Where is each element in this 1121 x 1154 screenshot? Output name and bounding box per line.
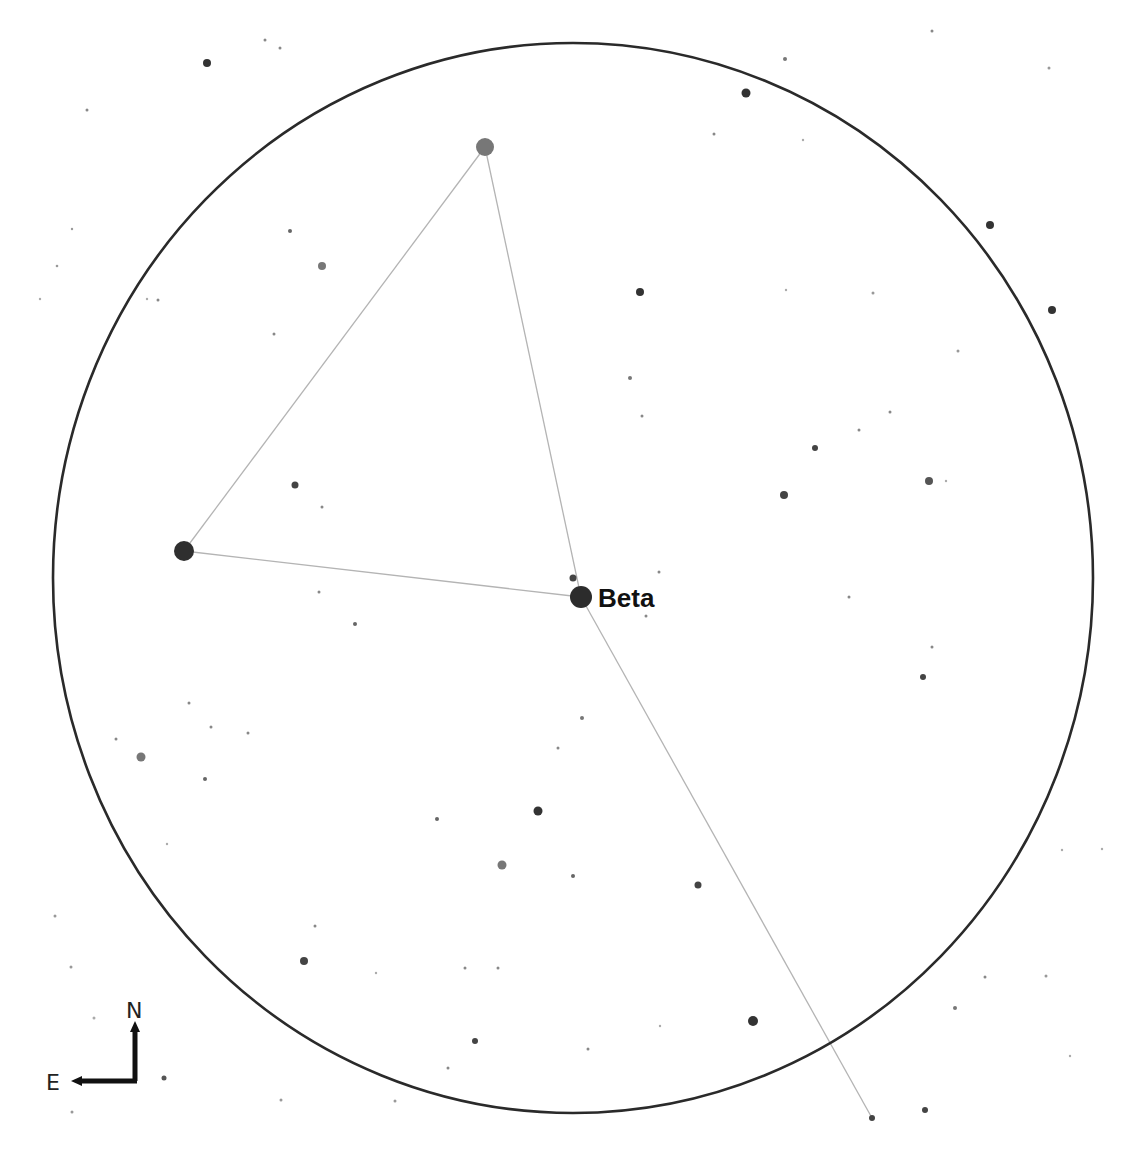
star bbox=[802, 139, 804, 141]
star bbox=[984, 976, 987, 979]
star bbox=[748, 1016, 758, 1026]
star bbox=[534, 807, 543, 816]
star bbox=[273, 333, 276, 336]
star bbox=[695, 882, 702, 889]
star bbox=[394, 1100, 397, 1103]
chart-background bbox=[0, 0, 1121, 1154]
star bbox=[580, 716, 584, 720]
star bbox=[300, 957, 308, 965]
star bbox=[146, 298, 148, 300]
star bbox=[587, 1048, 590, 1051]
star bbox=[889, 411, 892, 414]
star-label-beta: Beta bbox=[598, 583, 655, 613]
star bbox=[628, 376, 632, 380]
star bbox=[783, 57, 787, 61]
star bbox=[497, 967, 500, 970]
star bbox=[931, 30, 934, 33]
star bbox=[869, 1115, 875, 1121]
star bbox=[210, 726, 213, 729]
star bbox=[1048, 306, 1056, 314]
star bbox=[986, 221, 994, 229]
star bbox=[1069, 1055, 1071, 1057]
star bbox=[93, 1017, 96, 1020]
star bbox=[812, 445, 818, 451]
star bbox=[203, 777, 207, 781]
star bbox=[785, 289, 787, 291]
star bbox=[472, 1038, 478, 1044]
star bbox=[279, 47, 282, 50]
star bbox=[115, 738, 118, 741]
star bbox=[375, 972, 377, 974]
star bbox=[780, 491, 788, 499]
star bbox=[86, 109, 89, 112]
star bbox=[162, 1076, 167, 1081]
star bbox=[435, 817, 439, 821]
star bbox=[742, 89, 751, 98]
compass-east-label: E bbox=[46, 1070, 60, 1095]
star bbox=[476, 138, 494, 156]
star bbox=[188, 702, 191, 705]
star bbox=[571, 874, 575, 878]
star bbox=[70, 966, 73, 969]
star bbox=[157, 299, 160, 302]
star bbox=[641, 415, 644, 418]
star bbox=[645, 615, 648, 618]
star bbox=[557, 747, 560, 750]
star bbox=[166, 843, 168, 845]
star bbox=[71, 1111, 74, 1114]
star bbox=[280, 1099, 283, 1102]
star bbox=[1045, 975, 1048, 978]
star bbox=[1061, 849, 1063, 851]
star bbox=[848, 596, 851, 599]
star bbox=[1101, 848, 1103, 850]
compass-north-label: N bbox=[126, 998, 142, 1023]
star bbox=[858, 429, 861, 432]
star bbox=[953, 1006, 957, 1010]
star bbox=[39, 298, 41, 300]
star bbox=[945, 480, 947, 482]
star bbox=[925, 477, 933, 485]
star bbox=[71, 228, 73, 230]
star bbox=[137, 753, 146, 762]
star bbox=[872, 292, 875, 295]
star bbox=[447, 1067, 450, 1070]
star bbox=[314, 925, 317, 928]
star bbox=[203, 59, 211, 67]
star bbox=[292, 482, 299, 489]
star bbox=[464, 967, 467, 970]
star bbox=[570, 575, 577, 582]
star bbox=[321, 506, 324, 509]
star bbox=[498, 861, 507, 870]
star bbox=[922, 1107, 928, 1113]
star bbox=[713, 133, 716, 136]
star bbox=[174, 541, 194, 561]
star bbox=[658, 571, 661, 574]
star bbox=[264, 39, 267, 42]
star bbox=[54, 915, 57, 918]
star bbox=[247, 732, 250, 735]
star bbox=[957, 350, 960, 353]
star bbox=[636, 288, 644, 296]
star bbox=[318, 591, 321, 594]
star bbox=[920, 674, 926, 680]
star bbox=[1048, 67, 1051, 70]
star bbox=[931, 646, 934, 649]
star bbox=[56, 265, 59, 268]
star bbox=[353, 622, 357, 626]
star-beta bbox=[570, 586, 592, 608]
star bbox=[288, 229, 292, 233]
star-chart: Beta N E bbox=[0, 0, 1121, 1154]
star bbox=[659, 1025, 661, 1027]
star bbox=[318, 262, 326, 270]
